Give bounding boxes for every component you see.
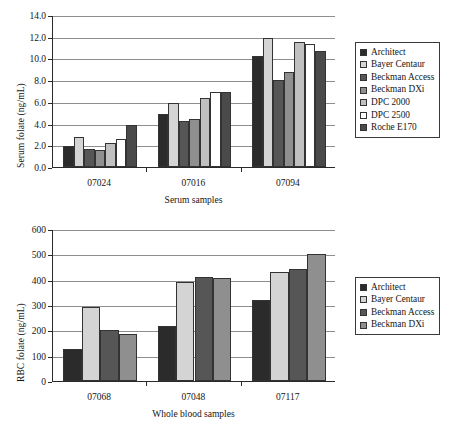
- y-axis-tick: [48, 306, 52, 307]
- gridline: [53, 16, 335, 17]
- bar-roche-e170-07016: [221, 92, 232, 167]
- y-axis-tick: [48, 125, 52, 126]
- y-axis-tick-label: 6.0: [34, 98, 46, 108]
- legend-serum: ArchitectBayer CentaurBeckman AccessBeck…: [355, 42, 440, 138]
- y-axis-tick-label: 14.0: [29, 11, 46, 21]
- y-axis-tick-label: 400: [32, 276, 46, 286]
- bar-beckman-dxi-07048: [213, 278, 231, 381]
- y-axis-title-rbc: RBC folate (ng/mL): [16, 303, 26, 382]
- gridline: [53, 38, 335, 39]
- bar-dpc-2000-07094: [294, 42, 305, 167]
- legend-swatch-icon: [360, 87, 367, 94]
- legend-swatch-icon: [360, 112, 367, 119]
- legend-swatch-icon: [360, 296, 367, 303]
- legend-item: Beckman Access: [360, 306, 434, 319]
- y-axis-tick: [48, 38, 52, 39]
- y-axis-tick-label: 300: [32, 301, 46, 311]
- y-axis-tick: [48, 357, 52, 358]
- bar-beckman-dxi-07024: [95, 150, 106, 167]
- y-axis-tick: [48, 146, 52, 147]
- legend-item-label: Beckman Access: [371, 308, 434, 317]
- bar-beckman-dxi-07094: [284, 72, 295, 167]
- x-axis-title-serum: Serum samples: [52, 195, 335, 205]
- bar-bayer-centaur-07068: [82, 307, 100, 381]
- legend-item: Architect: [360, 46, 434, 59]
- legend-item: Beckman Access: [360, 71, 434, 84]
- y-axis-tick-label: 10.0: [29, 54, 46, 64]
- bar-dpc-2500-07024: [116, 139, 127, 167]
- legend-swatch-icon: [360, 322, 367, 329]
- legend-swatch-icon: [360, 74, 367, 81]
- legend-item-label: DPC 2000: [371, 98, 410, 107]
- serum-folate-plot-area: [52, 16, 335, 168]
- legend-item: Beckman DXi: [360, 84, 434, 97]
- y-axis-tick: [48, 168, 52, 169]
- bar-beckman-dxi-07016: [189, 119, 200, 167]
- bar-bayer-centaur-07024: [74, 137, 85, 167]
- y-axis-tick: [48, 16, 52, 17]
- x-axis-tick: [241, 382, 242, 386]
- gridline: [53, 230, 335, 231]
- bar-dpc-2000-07016: [200, 98, 211, 167]
- bar-bayer-centaur-07094: [263, 38, 274, 167]
- legend-item: DPC 2500: [360, 109, 434, 122]
- y-axis-tick: [48, 255, 52, 256]
- y-axis-tick-label: 0.0: [34, 163, 46, 173]
- bar-architect-07024: [63, 146, 74, 167]
- legend-item-label: Roche E170: [371, 123, 417, 132]
- y-axis-tick-label: 500: [32, 250, 46, 260]
- legend-item: Roche E170: [360, 122, 434, 135]
- legend-swatch-icon: [360, 124, 367, 131]
- serum-folate-panel: Serum folate (ng/mL) 0.02.04.06.08.010.0…: [0, 0, 468, 216]
- y-axis-tick-label: 4.0: [34, 120, 46, 130]
- bar-beckman-dxi-07068: [119, 334, 137, 381]
- legend-swatch-icon: [360, 99, 367, 106]
- bar-architect-07048: [158, 326, 176, 381]
- legend-item: Bayer Centaur: [360, 294, 434, 307]
- y-axis-tick: [48, 281, 52, 282]
- y-axis-tick: [48, 81, 52, 82]
- bar-architect-07016: [158, 114, 169, 167]
- legend-swatch-icon: [360, 49, 367, 56]
- y-axis-tick-label: 600: [32, 225, 46, 235]
- y-axis-tick-label: 2.0: [34, 141, 46, 151]
- legend-swatch-icon: [360, 309, 367, 316]
- legend-item: Bayer Centaur: [360, 59, 434, 72]
- bar-roche-e170-07094: [315, 51, 326, 167]
- gridline: [53, 255, 335, 256]
- legend-item-label: DPC 2500: [371, 111, 410, 120]
- legend-item: Architect: [360, 281, 434, 294]
- y-axis-tick-label: 100: [32, 352, 46, 362]
- rbc-folate-plot-area: [52, 230, 335, 382]
- x-axis-category-label: 07048: [146, 392, 240, 402]
- x-axis-tick: [146, 382, 147, 386]
- legend-swatch-icon: [360, 61, 367, 68]
- bar-beckman-access-07068: [100, 330, 118, 381]
- bar-roche-e170-07024: [126, 125, 137, 167]
- legend-item: Beckman DXi: [360, 319, 434, 332]
- x-axis-category-label: 07094: [241, 178, 335, 188]
- x-axis-category-label: 07068: [52, 392, 146, 402]
- bar-beckman-access-07117: [289, 269, 307, 381]
- y-axis-tick-label: 8.0: [34, 76, 46, 86]
- legend-rbc: ArchitectBayer CentaurBeckman AccessBeck…: [355, 277, 440, 335]
- bar-architect-07117: [252, 300, 270, 381]
- y-axis-tick-label: 200: [32, 326, 46, 336]
- x-axis-tick: [146, 168, 147, 172]
- bar-beckman-access-07024: [84, 149, 95, 167]
- rbc-folate-panel: RBC folate (ng/mL) 0100200300400500600 0…: [0, 216, 468, 432]
- gridline: [53, 59, 335, 60]
- x-axis-category-label: 07024: [52, 178, 146, 188]
- y-axis-tick: [48, 331, 52, 332]
- bar-beckman-access-07016: [179, 121, 190, 167]
- y-axis-tick: [48, 103, 52, 104]
- y-axis-tick: [48, 59, 52, 60]
- y-axis-title-serum: Serum folate (ng/mL): [16, 83, 26, 168]
- legend-item-label: Architect: [371, 283, 406, 292]
- legend-item-label: Bayer Centaur: [371, 295, 425, 304]
- bar-architect-07068: [63, 349, 81, 381]
- legend-swatch-icon: [360, 284, 367, 291]
- bar-bayer-centaur-07117: [270, 272, 288, 381]
- bar-architect-07094: [252, 56, 263, 167]
- bar-bayer-centaur-07016: [168, 103, 179, 167]
